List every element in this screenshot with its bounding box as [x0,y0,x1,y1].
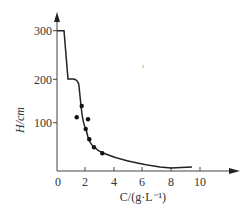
y-tick-100: 100 [34,116,52,130]
y-tick-200: 200 [34,73,52,87]
x-tick-2: 2 [82,175,88,189]
y-axis-arrow-icon [54,12,60,22]
chart: 300 200 100 0 2 4 6 8 10 H/cm C/(g·L⁻¹) … [0,0,248,214]
fitted-curve [57,31,192,168]
x-tick-10: 10 [194,175,206,189]
data-point [87,137,91,141]
x-axis-arrow-icon [229,168,240,174]
data-point [100,151,104,155]
x-axis [57,167,240,174]
y-tick-300: 300 [34,24,52,38]
data-point [84,127,88,131]
data-point [92,145,96,149]
x-axis-label: C/(g·L⁻¹) [120,190,166,204]
y-axis [53,12,60,171]
measured-points [75,104,105,156]
data-point [75,115,79,119]
x-tick-6: 6 [139,175,145,189]
x-tick-4: 4 [111,175,117,189]
stray-mark: ɪ [142,63,144,69]
data-point [80,104,84,108]
y-axis-label: H/cm [13,107,27,134]
x-tick-0: 0 [55,175,61,189]
x-tick-8: 8 [168,175,174,189]
data-point [86,117,90,121]
